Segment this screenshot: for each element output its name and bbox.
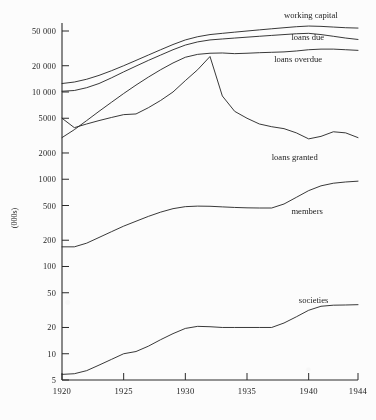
x-tick-label: 1944 xyxy=(349,386,368,396)
y-tick-label: 200 xyxy=(43,236,56,245)
series-label-members: members xyxy=(291,206,323,216)
figure-container: 510205010020050010002000500010 00020 000… xyxy=(0,0,376,420)
y-tick-label: 1000 xyxy=(39,175,56,184)
y-tick-label: 10 000 xyxy=(32,88,56,97)
y-axis-title: (000s) xyxy=(10,207,19,228)
y-tick-label: 20 000 xyxy=(32,62,56,71)
y-axis-ticks: 510205010020050010002000500010 00020 000… xyxy=(32,27,69,385)
y-axis-title-text: (000s) xyxy=(10,207,19,228)
series-labels: working capitalloans dueloans overdueloa… xyxy=(272,10,339,305)
series-lines xyxy=(62,26,358,374)
y-tick-label: 5 xyxy=(52,376,56,385)
series-label-societies: societies xyxy=(299,295,329,305)
x-tick-label: 1930 xyxy=(176,386,194,396)
x-tick-label: 1925 xyxy=(114,386,132,396)
y-tick-label: 50 xyxy=(47,289,56,298)
series-label-loans-due: loans due xyxy=(291,32,324,42)
y-tick-label: 500 xyxy=(43,202,56,211)
x-tick-label: 1920 xyxy=(53,386,71,396)
x-tick-label: 1940 xyxy=(299,386,317,396)
y-tick-label: 20 xyxy=(47,323,56,332)
series-label-loans-granted: loans granted xyxy=(272,152,319,162)
x-axis-ticks: 192019251930193519401944 xyxy=(53,373,368,396)
y-tick-label: 2000 xyxy=(39,149,56,158)
y-tick-label: 50 000 xyxy=(32,27,56,36)
series-label-working-capital: working capital xyxy=(284,10,338,20)
series-line-loans-granted xyxy=(62,57,358,139)
y-tick-label: 100 xyxy=(43,262,56,271)
series-line-societies xyxy=(62,305,358,375)
y-tick-label: 5000 xyxy=(39,114,56,123)
x-tick-label: 1935 xyxy=(238,386,256,396)
line-chart: 510205010020050010002000500010 00020 000… xyxy=(0,0,376,420)
y-tick-label: 10 xyxy=(47,350,56,359)
series-label-loans-overdue: loans overdue xyxy=(274,54,322,64)
